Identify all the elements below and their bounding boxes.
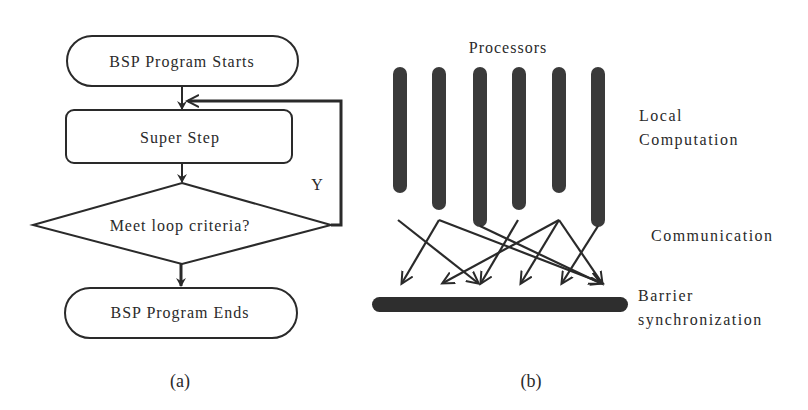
loop-yes-label: Y bbox=[311, 176, 323, 193]
processor-bars bbox=[393, 67, 605, 227]
processor-bar-3 bbox=[473, 67, 487, 227]
superstep-label: Super Step bbox=[140, 129, 220, 147]
superstep-box: Super Step bbox=[66, 110, 292, 163]
phase-barrier-line2: synchronization bbox=[638, 311, 763, 329]
communication-arrows bbox=[398, 220, 602, 283]
processor-bar-1 bbox=[393, 67, 407, 193]
bsp-diagram: BSP Program Starts Super Step Meet loop … bbox=[0, 0, 808, 410]
bsp-model-panel: Processors bbox=[372, 39, 774, 392]
processor-bar-5 bbox=[552, 67, 566, 193]
end-label: BSP Program Ends bbox=[111, 304, 250, 322]
start-label: BSP Program Starts bbox=[109, 53, 254, 71]
decision-label: Meet loop criteria? bbox=[110, 217, 251, 235]
processor-bar-6 bbox=[591, 67, 605, 227]
caption-b: (b) bbox=[521, 371, 542, 392]
processor-bar-4 bbox=[512, 67, 526, 210]
end-terminal: BSP Program Ends bbox=[65, 288, 297, 338]
processor-bar-2 bbox=[432, 67, 446, 210]
barrier-bar bbox=[372, 297, 628, 312]
processors-label: Processors bbox=[469, 39, 547, 56]
caption-a: (a) bbox=[170, 371, 190, 392]
phase-communication: Communication bbox=[651, 227, 774, 244]
phase-local-line2: Computation bbox=[639, 131, 739, 149]
phase-barrier-line1: Barrier bbox=[638, 287, 694, 304]
phase-labels: Local Computation Communication Barrier … bbox=[638, 107, 774, 329]
decision-diamond: Meet loop criteria? bbox=[33, 183, 331, 264]
phase-local-line1: Local bbox=[639, 107, 683, 124]
flowchart-panel: BSP Program Starts Super Step Meet loop … bbox=[33, 36, 341, 392]
start-terminal: BSP Program Starts bbox=[67, 36, 298, 86]
